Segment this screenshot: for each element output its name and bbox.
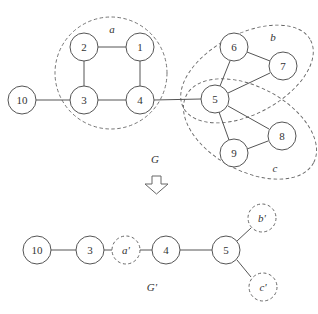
node-4: 4 xyxy=(126,86,154,114)
svg-text:7: 7 xyxy=(280,60,286,72)
svg-text:3: 3 xyxy=(81,94,87,106)
node-c-prime: c' xyxy=(249,273,277,301)
svg-text:c': c' xyxy=(259,281,267,293)
node-3-prime: 3 xyxy=(76,236,104,264)
node-10-prime: 10 xyxy=(23,236,51,264)
node-5: 5 xyxy=(201,85,229,113)
edge-5-6 xyxy=(220,61,230,86)
group-b-label: b xyxy=(270,31,276,43)
svg-text:a': a' xyxy=(122,244,131,256)
svg-text:4: 4 xyxy=(163,244,169,256)
graph-g-prime-label: G' xyxy=(147,281,158,293)
edge-5-9 xyxy=(219,112,229,140)
down-arrow-icon xyxy=(145,176,168,194)
svg-text:10: 10 xyxy=(32,244,44,256)
node-7: 7 xyxy=(269,52,297,80)
node-8: 8 xyxy=(268,122,296,150)
node-1: 1 xyxy=(126,33,154,61)
svg-text:5: 5 xyxy=(223,244,229,256)
svg-text:2: 2 xyxy=(81,41,87,53)
edge-4-5 xyxy=(154,99,201,100)
edge-9-8 xyxy=(247,141,268,149)
svg-text:10: 10 xyxy=(17,94,29,106)
group-c-outline xyxy=(167,58,318,200)
node-b-prime: b' xyxy=(248,204,276,232)
svg-text:b': b' xyxy=(258,212,267,224)
node-6: 6 xyxy=(220,33,248,61)
edge-5-7 xyxy=(228,73,270,93)
group-a-label: a xyxy=(109,23,115,35)
node-10: 10 xyxy=(8,86,36,114)
node-3: 3 xyxy=(70,86,98,114)
group-c-label: c xyxy=(273,162,278,174)
node-4-prime: 4 xyxy=(152,236,180,264)
svg-text:3: 3 xyxy=(87,244,93,256)
top-graph: a b c 1 2 3 4 xyxy=(8,5,318,200)
svg-text:1: 1 xyxy=(137,41,143,53)
svg-text:4: 4 xyxy=(137,94,143,106)
svg-text:6: 6 xyxy=(231,41,237,53)
node-5-prime: 5 xyxy=(212,236,240,264)
edge-5-cprime xyxy=(237,260,251,277)
graph-g-label: G xyxy=(151,153,159,165)
svg-text:5: 5 xyxy=(212,93,218,105)
edge-6-7 xyxy=(247,52,270,61)
node-2: 2 xyxy=(70,33,98,61)
svg-text:8: 8 xyxy=(279,130,285,142)
bottom-graph: 10 3 a' 4 5 b' c' G' xyxy=(23,204,277,301)
node-9: 9 xyxy=(220,139,248,167)
graph-contraction-diagram: a b c 1 2 3 4 xyxy=(0,0,318,314)
svg-text:9: 9 xyxy=(231,147,237,159)
node-a-prime: a' xyxy=(112,236,140,264)
edge-5-8 xyxy=(228,106,269,129)
edge-5-bprime xyxy=(237,228,251,241)
